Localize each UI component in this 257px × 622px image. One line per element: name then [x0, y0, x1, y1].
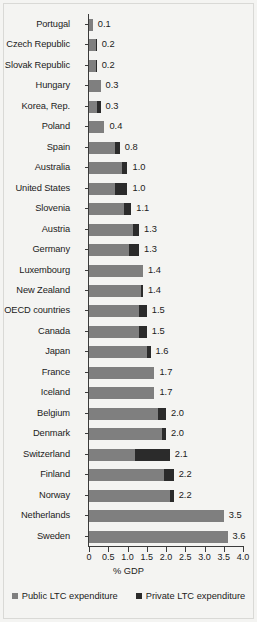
bar-segment-public	[89, 19, 93, 31]
value-label: 1.5	[149, 300, 165, 321]
bar-segment-public	[89, 346, 147, 358]
bar-segment-private	[133, 224, 139, 236]
bar-row: Austria1.3	[89, 219, 243, 240]
category-label: Luxembourg	[0, 260, 70, 281]
value-label: 3.5	[226, 505, 242, 526]
category-label: Denmark	[0, 423, 70, 444]
value-label: 0.2	[99, 34, 115, 55]
bar-segment-public	[89, 387, 154, 399]
value-label: 1.5	[149, 321, 165, 342]
category-label: Austria	[0, 219, 70, 240]
bar-row: Netherlands3.5	[89, 505, 243, 526]
chart-container: Portugal0.1Czech Republic0.2Slovak Repub…	[0, 0, 257, 622]
bar-row: Slovenia1.1	[89, 198, 243, 219]
bar-segment-private	[158, 408, 166, 420]
bar-segment-public	[89, 408, 158, 420]
bar-segment-public	[89, 162, 122, 174]
bar-row: United States1.0	[89, 178, 243, 199]
value-label: 1.3	[141, 239, 157, 260]
x-axis-tick-label: 4.0	[237, 552, 250, 562]
category-label: Belgium	[0, 403, 70, 424]
bar-row: Czech Republic0.2	[89, 34, 243, 55]
stacked-bar	[89, 80, 101, 92]
bar-segment-private	[124, 203, 132, 215]
value-label: 3.6	[230, 526, 246, 547]
bar-segment-private	[97, 101, 100, 113]
bar-segment-private	[135, 449, 170, 461]
bar-row: Luxembourg1.4	[89, 260, 243, 281]
bar-segment-private	[147, 346, 151, 358]
category-label: Korea, Rep.	[0, 96, 70, 117]
category-label: Canada	[0, 321, 70, 342]
bar-segment-private	[139, 305, 147, 317]
category-label: Poland	[0, 116, 70, 137]
stacked-bar	[89, 510, 224, 522]
value-label: 1.0	[130, 178, 146, 199]
value-label: 2.2	[176, 464, 192, 485]
value-label: 0.8	[122, 137, 138, 158]
bar-segment-private	[141, 285, 143, 297]
bar-row: Japan1.6	[89, 341, 243, 362]
value-label: 2.0	[168, 423, 184, 444]
bar-row: Poland0.4	[89, 116, 243, 137]
bar-segment-private	[115, 142, 120, 154]
bar-segment-public	[89, 510, 224, 522]
bar-row: Denmark2.0	[89, 423, 243, 444]
bar-row: New Zealand1.4	[89, 280, 243, 301]
legend-swatch-icon	[136, 593, 142, 599]
stacked-bar	[89, 449, 170, 461]
bar-segment-public	[89, 531, 228, 543]
bar-segment-public	[89, 121, 104, 133]
stacked-bar	[89, 285, 143, 297]
bar-row: Sweden3.6	[89, 526, 243, 547]
bar-row: Korea, Rep.0.3	[89, 96, 243, 117]
stacked-bar	[89, 224, 139, 236]
stacked-bar	[89, 244, 139, 256]
stacked-bar	[89, 469, 174, 481]
stacked-bar	[89, 183, 127, 195]
category-label: Netherlands	[0, 505, 70, 526]
bar-segment-public	[89, 469, 164, 481]
bar-segment-public	[89, 326, 139, 338]
category-label: Finland	[0, 464, 70, 485]
value-label: 2.2	[176, 485, 192, 506]
x-axis-tick-label: 0.5	[102, 552, 115, 562]
stacked-bar	[89, 408, 166, 420]
stacked-bar	[89, 60, 97, 72]
stacked-bar	[89, 326, 147, 338]
bar-segment-public	[89, 367, 154, 379]
bar-segment-private	[122, 162, 128, 174]
value-label: 1.1	[133, 198, 149, 219]
x-axis-title: % GDP	[0, 566, 257, 576]
bar-row: Slovak Republic0.2	[89, 55, 243, 76]
bar-segment-private	[162, 428, 166, 440]
category-label: Portugal	[0, 14, 70, 35]
value-label: 2.1	[172, 444, 188, 465]
bar-segment-public	[89, 449, 135, 461]
bar-segment-private	[129, 244, 139, 256]
value-label: 1.7	[156, 362, 172, 383]
bar-segment-private	[164, 469, 174, 481]
category-label: Sweden	[0, 526, 70, 547]
legend-label: Public LTC expenditure	[22, 591, 118, 601]
category-label: Slovak Republic	[0, 55, 70, 76]
category-label: OECD countries	[0, 300, 70, 321]
value-label: 1.6	[153, 341, 169, 362]
legend-item[interactable]: Private LTC expenditure	[136, 591, 246, 601]
legend-item[interactable]: Public LTC expenditure	[12, 591, 118, 601]
bar-row: Canada1.5	[89, 321, 243, 342]
category-label: Japan	[0, 341, 70, 362]
category-label: Spain	[0, 137, 70, 158]
legend-label: Private LTC expenditure	[146, 591, 246, 601]
stacked-bar	[89, 162, 127, 174]
value-label: 1.7	[156, 382, 172, 403]
category-label: France	[0, 362, 70, 383]
value-label: 1.4	[145, 280, 161, 301]
stacked-bar	[89, 531, 228, 543]
bar-row: France1.7	[89, 362, 243, 383]
category-label: Iceland	[0, 382, 70, 403]
stacked-bar	[89, 428, 166, 440]
bar-segment-public	[89, 285, 141, 297]
bar-row: Iceland1.7	[89, 382, 243, 403]
bar-segment-public	[89, 101, 97, 113]
